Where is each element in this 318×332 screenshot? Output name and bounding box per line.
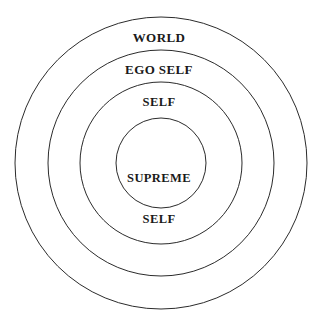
concentric-circle-diagram: WORLD EGO SELF SELF SUPREME SELF bbox=[0, 0, 318, 332]
ring-label-world: WORLD bbox=[0, 31, 318, 45]
ring-label-supreme-self-line2: SELF bbox=[0, 213, 318, 227]
ring-label-supreme-self: SUPREME SELF bbox=[0, 145, 318, 253]
ring-label-self: SELF bbox=[0, 96, 318, 110]
ring-label-ego-self: EGO SELF bbox=[0, 63, 318, 77]
ring-label-supreme-self-line1: SUPREME bbox=[0, 172, 318, 186]
